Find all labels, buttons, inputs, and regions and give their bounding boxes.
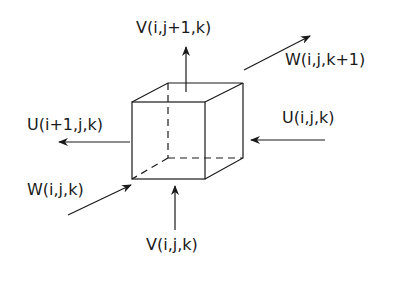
- label-w-back: W(i,j,k): [27, 182, 84, 198]
- cube-top-face: [132, 83, 243, 102]
- label-u-left: U(i+1,j,k): [27, 117, 103, 133]
- cube-right-face: [205, 83, 243, 179]
- cube-hidden-edges: [132, 83, 243, 179]
- label-u-right: U(i,j,k): [282, 110, 335, 126]
- label-w-front: W(i,j,k+1): [285, 52, 365, 68]
- cube: [132, 83, 243, 179]
- cube-diagram: [0, 0, 401, 282]
- label-v-bottom: V(i,j,k): [146, 237, 198, 253]
- label-v-top: V(i,j+1,k): [136, 20, 211, 36]
